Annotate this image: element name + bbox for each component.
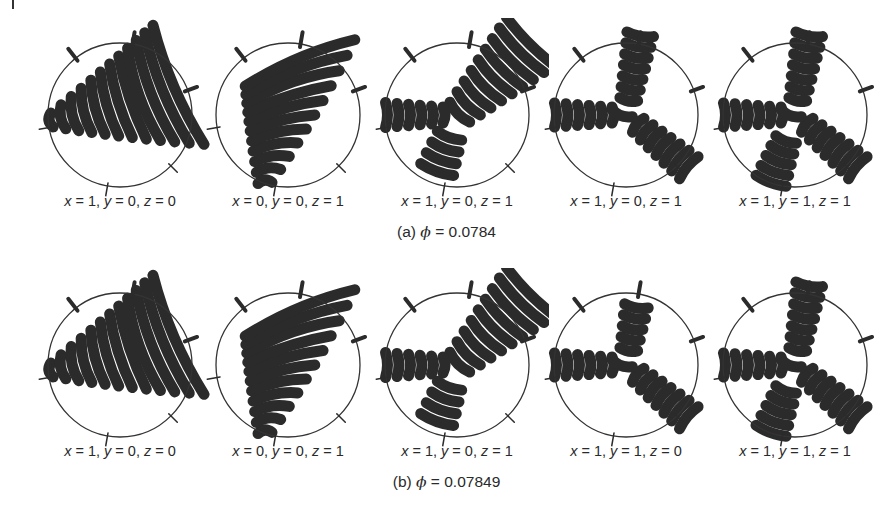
circular-pattern-diagram — [707, 268, 887, 453]
panel-label: x = 0, y = 0, z = 1 — [203, 193, 373, 209]
panel-label: x = 1, y = 0, z = 1 — [372, 443, 542, 459]
panel-label: x = 1, y = 1, z = 1 — [710, 443, 880, 459]
panel-label: x = 1, y = 0, z = 1 — [372, 193, 542, 209]
panel-label: x = 0, y = 0, z = 1 — [203, 443, 373, 459]
panel-label: x = 1, y = 0, z = 0 — [35, 193, 205, 209]
circular-pattern-diagram — [538, 18, 718, 203]
circular-pattern-diagram — [200, 18, 380, 203]
circular-pattern-diagram — [538, 268, 718, 453]
row-caption: (a) ϕ = 0.0784 — [0, 223, 893, 241]
panel-label: x = 1, y = 0, z = 0 — [35, 443, 205, 459]
circular-pattern-diagram — [32, 18, 212, 203]
circular-pattern-diagram — [369, 268, 549, 453]
page-edge-mark — [12, 0, 14, 9]
row-caption: (b) ϕ = 0.07849 — [0, 473, 893, 491]
circular-pattern-diagram — [200, 268, 380, 453]
panel-label: x = 1, y = 1, z = 1 — [710, 193, 880, 209]
circular-pattern-diagram — [32, 268, 212, 453]
panel-label: x = 1, y = 1, z = 0 — [541, 443, 711, 459]
circular-pattern-diagram — [369, 18, 549, 203]
panel-label: x = 1, y = 0, z = 1 — [541, 193, 711, 209]
circular-pattern-diagram — [707, 18, 887, 203]
